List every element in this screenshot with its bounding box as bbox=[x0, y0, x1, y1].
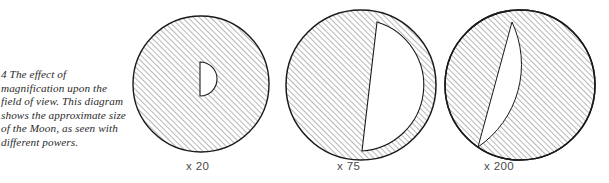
magnification-label-x75: x 75 bbox=[337, 160, 360, 172]
figure-illustration bbox=[0, 0, 609, 183]
fov-panel-x200 bbox=[440, 6, 602, 166]
field-of-view-diagram bbox=[0, 0, 609, 183]
fov-panel-x20 bbox=[130, 12, 272, 158]
hatched-sky-x200 bbox=[440, 6, 602, 166]
fov-panel-x75 bbox=[280, 6, 440, 166]
magnification-label-x20: x 20 bbox=[186, 160, 209, 172]
magnification-label-x200: x 200 bbox=[484, 160, 514, 172]
figure-page: 4 The effect of magnification upon the f… bbox=[0, 0, 609, 183]
